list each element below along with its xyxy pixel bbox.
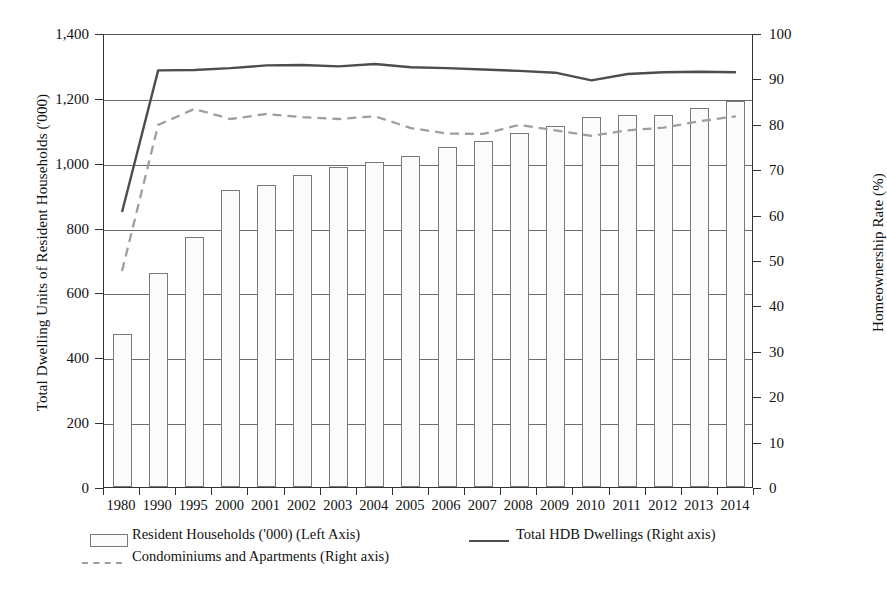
condominiums-line — [122, 109, 736, 271]
y-axis-right-tick-label: 0 — [769, 480, 777, 497]
x-axis-tick-mark — [681, 488, 682, 495]
y-axis-right-tick-label: 60 — [769, 207, 784, 224]
y-axis-right-tick-label: 40 — [769, 298, 784, 315]
legend-label: Condominiums and Apartments (Right axis) — [132, 548, 389, 565]
y-axis-left-tick-label: 800 — [0, 220, 89, 237]
x-axis-tick-mark — [139, 488, 140, 495]
x-axis-tick-mark — [247, 488, 248, 495]
y-axis-right-tick-mark — [753, 125, 761, 126]
y-axis-right-tick-mark — [753, 443, 761, 444]
x-axis-tick-mark — [392, 488, 393, 495]
legend-label: Resident Households ('000) (Left Axis) — [132, 526, 360, 543]
x-axis-tick-mark — [753, 488, 754, 495]
y-axis-left-tick-label: 1,000 — [0, 155, 89, 172]
x-axis-tick-mark — [175, 488, 176, 495]
x-axis-tick-label: 2010 — [576, 497, 605, 514]
x-axis-tick-label: 1995 — [179, 497, 208, 514]
y-axis-left-tick-mark — [95, 229, 103, 230]
y-axis-left-tick-mark — [95, 423, 103, 424]
y-axis-left-tick-mark — [95, 164, 103, 165]
x-axis-tick-mark — [500, 488, 501, 495]
y-axis-left-tick-label: 1,200 — [0, 90, 89, 107]
x-axis-tick-mark — [356, 488, 357, 495]
y-axis-right-tick-mark — [753, 216, 761, 217]
line-series — [104, 35, 754, 489]
y-axis-left-tick-mark — [95, 34, 103, 35]
y-axis-left-tick-label: 600 — [0, 285, 89, 302]
x-axis-tick-label: 2000 — [215, 497, 244, 514]
x-axis-tick-label: 2012 — [648, 497, 677, 514]
x-axis-tick-label: 2006 — [432, 497, 461, 514]
x-axis-tick-label: 2014 — [720, 497, 749, 514]
x-axis-tick-label: 2004 — [359, 497, 388, 514]
x-axis-tick-mark — [103, 488, 104, 495]
y-axis-right-tick-label: 20 — [769, 389, 784, 406]
y-axis-left-tick-label: 200 — [0, 415, 89, 432]
y-axis-left-tick-mark — [95, 293, 103, 294]
y-axis-right-tick-mark — [753, 306, 761, 307]
y-axis-left-tick-label: 400 — [0, 350, 89, 367]
y-axis-right-tick-mark — [753, 397, 761, 398]
x-axis-tick-label: 2007 — [468, 497, 497, 514]
legend-swatch-solid-line — [469, 540, 509, 542]
x-axis-tick-mark — [572, 488, 573, 495]
y-axis-right-tick-label: 100 — [769, 26, 792, 43]
x-axis-tick-label: 1990 — [143, 497, 172, 514]
legend: Resident Households ('000) (Left Axis)To… — [0, 524, 879, 584]
x-axis-tick-label: 2009 — [540, 497, 569, 514]
x-axis-tick-mark — [609, 488, 610, 495]
plot-area — [103, 34, 753, 488]
x-axis-tick-label: 2003 — [323, 497, 352, 514]
hdb-dwellings-line — [122, 64, 736, 212]
legend-label: Total HDB Dwellings (Right axis) — [516, 526, 716, 543]
y-axis-right-tick-mark — [753, 488, 761, 489]
x-axis-tick-label: 2008 — [504, 497, 533, 514]
y-axis-right-tick-label: 80 — [769, 116, 784, 133]
legend-swatch-bar — [90, 534, 128, 547]
x-axis-tick-mark — [211, 488, 212, 495]
x-axis-tick-label: 2011 — [612, 497, 640, 514]
y-axis-right-title: Homeownership Rate (%) — [870, 43, 887, 463]
x-axis-tick-mark — [464, 488, 465, 495]
legend-swatch-dashed-line — [82, 562, 122, 564]
x-axis-tick-mark — [428, 488, 429, 495]
x-axis-tick-mark — [284, 488, 285, 495]
y-axis-right-tick-label: 30 — [769, 343, 784, 360]
y-axis-right-tick-label: 50 — [769, 253, 784, 270]
x-axis-tick-label: 2001 — [251, 497, 280, 514]
x-axis-tick-label: 1980 — [107, 497, 136, 514]
y-axis-right-tick-mark — [753, 352, 761, 353]
y-axis-right-tick-mark — [753, 34, 761, 35]
y-axis-left-tick-mark — [95, 358, 103, 359]
x-axis-tick-mark — [320, 488, 321, 495]
y-axis-right-tick-mark — [753, 261, 761, 262]
x-axis-tick-mark — [645, 488, 646, 495]
y-axis-right-tick-label: 90 — [769, 71, 784, 88]
y-axis-left-tick-mark — [95, 488, 103, 489]
y-axis-right-tick-mark — [753, 79, 761, 80]
y-axis-left-tick-label: 0 — [0, 480, 89, 497]
y-axis-left-tick-label: 1,400 — [0, 26, 89, 43]
x-axis-tick-label: 2002 — [287, 497, 316, 514]
x-axis-tick-mark — [717, 488, 718, 495]
x-axis-tick-label: 2013 — [684, 497, 713, 514]
y-axis-right-tick-mark — [753, 170, 761, 171]
x-axis-tick-mark — [536, 488, 537, 495]
x-axis-tick-label: 2005 — [395, 497, 424, 514]
y-axis-right-tick-label: 10 — [769, 434, 784, 451]
y-axis-right-tick-label: 70 — [769, 162, 784, 179]
y-axis-left-tick-mark — [95, 99, 103, 100]
